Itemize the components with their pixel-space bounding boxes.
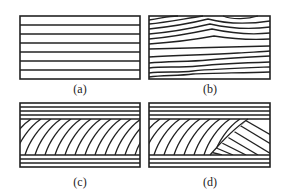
wavy-layers-diagram — [148, 15, 272, 81]
panel-c-label: (c) — [60, 175, 100, 190]
panel-b — [148, 15, 272, 81]
panel-d — [148, 102, 272, 169]
panel-a — [19, 15, 142, 81]
panel-d-label: (d) — [190, 175, 230, 190]
panel-a-label: (a) — [60, 82, 100, 97]
panel-c — [19, 102, 142, 169]
inclined-layers-diagram — [19, 102, 142, 169]
panel-b-label: (b) — [190, 82, 230, 97]
cross-bedded-layers-diagram — [148, 102, 272, 169]
parallel-layers-diagram — [19, 15, 142, 81]
